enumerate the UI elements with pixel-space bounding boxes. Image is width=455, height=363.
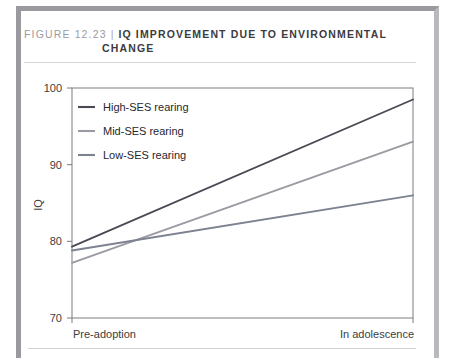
y-axis-tick-label: 100 [44,82,62,94]
y-axis-tick-label: 70 [50,312,62,324]
legend-item-label: Mid-SES rearing [103,125,184,137]
series-line [72,100,413,247]
chart-legend: High-SES rearingMid-SES rearingLow-SES r… [78,101,189,161]
series-line [72,195,413,250]
chart-area: 100908070 Pre-adoptionIn adolescence IQ … [0,0,455,363]
line-chart: 100908070 Pre-adoptionIn adolescence IQ … [0,0,455,363]
x-axis-tick-label: Pre-adoption [73,328,136,340]
series-lines [72,100,413,263]
legend-item-label: Low-SES rearing [103,149,186,161]
legend-item-label: High-SES rearing [103,101,189,113]
y-axis-tick-label: 90 [50,159,62,171]
y-axis: 100908070 [44,82,72,324]
y-axis-tick-label: 80 [50,235,62,247]
x-axis: Pre-adoptionIn adolescence [72,318,414,340]
y-axis-title: IQ [32,199,44,211]
x-axis-tick-label: In adolescence [340,328,414,340]
